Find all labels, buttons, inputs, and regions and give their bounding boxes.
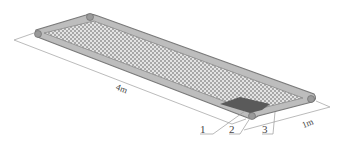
dimension-length-label: 4m (114, 82, 128, 95)
corner-joint-icon (35, 31, 42, 38)
dimension-width-label: 1m (300, 117, 314, 131)
panel-frame (35, 14, 316, 120)
callout-1: 1 (200, 123, 206, 135)
corner-joint-icon (308, 96, 315, 103)
callout-3: 3 (262, 123, 268, 135)
diagram-canvas: 4m 1m 1 2 3 (0, 0, 342, 154)
mesh-surface (44, 21, 303, 111)
corner-joint-icon (87, 14, 94, 21)
callout-2: 2 (229, 123, 235, 135)
